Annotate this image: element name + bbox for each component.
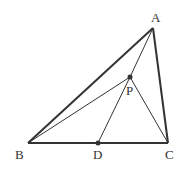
label-b: B (15, 147, 24, 162)
label-d: D (93, 147, 102, 162)
label-c: C (165, 147, 174, 162)
segment-ab (28, 28, 153, 143)
point-p (128, 75, 133, 80)
segment-pc (130, 77, 168, 143)
segment-ap (130, 28, 153, 77)
label-p: P (126, 83, 133, 98)
geometry-diagram: A B C D P (0, 0, 190, 171)
point-d (96, 141, 101, 146)
segment-bp (28, 77, 130, 143)
label-a: A (151, 10, 161, 25)
segment-ca (153, 28, 168, 143)
